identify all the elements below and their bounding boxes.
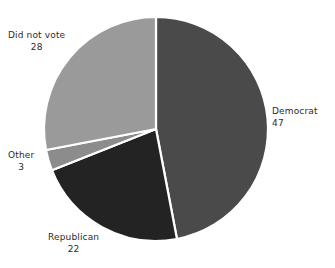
- slice-label-other-value: 3: [8, 162, 34, 174]
- slice-label-did-not-vote: Did not vote 28: [8, 30, 65, 53]
- slice-label-other: Other 3: [8, 150, 34, 173]
- slice-label-did-not-vote-name: Did not vote: [8, 30, 65, 42]
- slice-label-democrat-value: 47: [272, 118, 318, 130]
- pie-chart: Democrat 47 Did not vote 28 Other 3 Repu…: [0, 0, 335, 268]
- slice-label-republican-value: 22: [48, 244, 99, 256]
- slice-label-other-name: Other: [8, 150, 34, 162]
- slice-label-republican-name: Republican: [48, 232, 99, 244]
- slice-label-republican: Republican 22: [48, 232, 99, 255]
- slice-label-did-not-vote-value: 28: [8, 42, 65, 54]
- slice-label-democrat: Democrat 47: [272, 106, 318, 129]
- slice-label-democrat-name: Democrat: [272, 106, 318, 118]
- pie-slices-group: [44, 17, 268, 241]
